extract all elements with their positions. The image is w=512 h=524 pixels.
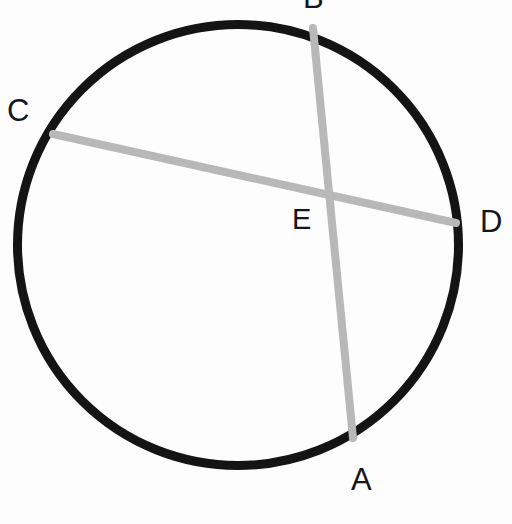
point-label-a: A [351,464,372,495]
geometry-diagram: B C D E A [0,0,512,524]
circle-outline [18,25,459,466]
point-label-c: C [7,95,29,126]
circle-chords-canvas [0,0,512,524]
chord-cd-line [53,134,456,223]
point-label-e: E [292,205,311,234]
point-label-b: B [303,0,324,13]
point-label-d: D [480,206,502,237]
chord-ab-line [313,28,353,438]
